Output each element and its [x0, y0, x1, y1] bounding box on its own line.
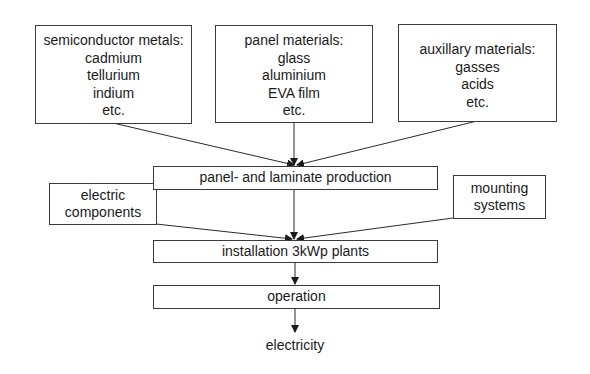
box-item: etc.: [283, 102, 306, 120]
edge-semiconductor-to-production: [113, 123, 294, 165]
box-title: semiconductor metals:: [43, 32, 183, 50]
box-title: panel materials:: [245, 32, 344, 50]
edge-electric-to-installation: [156, 224, 292, 239]
auxillary-materials-box: auxillary materials: gasses acids etc.: [398, 24, 557, 122]
box-item: glass: [278, 50, 311, 68]
operation-box: operation: [153, 285, 440, 309]
box-line: components: [65, 204, 141, 222]
box-line: mounting: [471, 180, 529, 198]
electric-components-box: electric components: [49, 183, 157, 225]
box-item: tellurium: [87, 67, 140, 85]
step-label: panel- and laminate production: [199, 169, 391, 187]
step-label: installation 3kWp plants: [222, 243, 369, 261]
mounting-systems-box: mounting systems: [453, 175, 546, 219]
box-item: gasses: [455, 59, 499, 77]
edge-auxillary-to-production: [297, 121, 477, 165]
semiconductor-metals-box: semiconductor metals: cadmium tellurium …: [35, 25, 192, 124]
electricity-output-label: electricity: [245, 337, 345, 353]
installation-plants-box: installation 3kWp plants: [153, 240, 438, 263]
box-title: auxillary materials:: [420, 41, 536, 59]
box-item: aluminium: [262, 67, 326, 85]
box-item: etc.: [466, 94, 489, 112]
panel-materials-box: panel materials: glass aluminium EVA fil…: [215, 25, 373, 123]
box-line: systems: [474, 197, 525, 215]
box-item: etc.: [102, 102, 125, 120]
step-label: operation: [267, 288, 325, 306]
box-item: indium: [93, 85, 134, 103]
panel-laminate-production-box: panel- and laminate production: [153, 166, 438, 190]
box-item: EVA film: [268, 85, 320, 103]
box-line: electric: [81, 187, 125, 205]
edge-mounting-to-installation: [297, 218, 453, 239]
box-item: cadmium: [85, 50, 142, 68]
box-item: acids: [461, 76, 494, 94]
